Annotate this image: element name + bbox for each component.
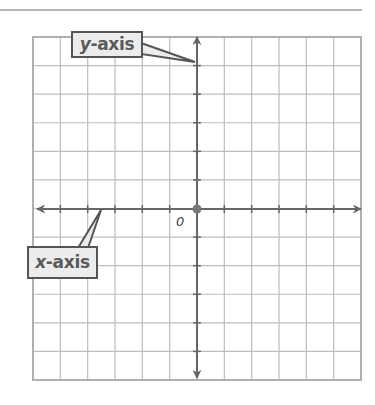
origin-point	[193, 205, 202, 214]
x-axis-label-text: -axis	[46, 254, 90, 271]
y-axis-callout-pointer	[141, 43, 195, 62]
origin-label: 0	[176, 214, 184, 229]
y-axis-label-text: -axis	[90, 36, 134, 53]
x-axis-label: x-axis	[27, 246, 98, 279]
y-axis-label: y-axis	[71, 31, 143, 58]
coordinate-plane	[0, 0, 375, 405]
x-axis-callout-pointer	[78, 210, 101, 248]
x-axis-label-variable: x	[35, 254, 46, 271]
y-axis-label-variable: y	[80, 36, 91, 53]
coordinate-plane-diagram: y-axis x-axis 0	[0, 0, 375, 405]
